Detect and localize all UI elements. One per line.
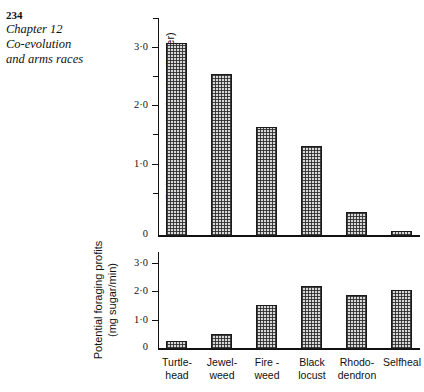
bar-fire-weed-bottom — [256, 305, 277, 349]
x-label-rhododendron-line-2: dendron — [329, 369, 385, 382]
x-axis-line-bottom — [158, 348, 420, 350]
y-tick-minor-0p5-top — [153, 193, 158, 194]
x-axis-category-labels: Turtle- head Jewel- weed Fire - weed Bla… — [158, 356, 424, 390]
bar-black-locust-bottom — [301, 286, 322, 349]
y-tick-1-top — [152, 164, 158, 165]
y-tick-minor-3p5-top — [153, 18, 158, 19]
y-axis-title-bottom-line-1: Potential foraging profits — [91, 215, 105, 385]
y-axis-title-bottom-line-2: (mg sugar/min) — [105, 215, 119, 385]
bar-turtle-head-top — [166, 43, 187, 236]
x-label-selfheal: Selfheal — [374, 356, 424, 369]
y-tick-label-1-top: 1·0 — [108, 159, 148, 169]
bar-jewel-weed-bottom — [211, 334, 232, 349]
page-canvas: 234 Chapter 12 Co-evolution and arms rac… — [0, 0, 424, 392]
plot-area-top: Daily sugar production (mg/flower) 3·0 2… — [158, 18, 420, 236]
y-tick-label-3-top: 3·0 — [108, 42, 148, 52]
y-axis-title-bottom: Potential foraging profits (mg sugar/min… — [91, 215, 151, 385]
bar-selfheal-top — [391, 231, 412, 236]
y-tick-2-top — [152, 105, 158, 106]
chart-daily-sugar-production: Daily sugar production (mg/flower) 3·0 2… — [0, 18, 424, 246]
y-axis-line-top — [158, 18, 159, 236]
chart-potential-foraging-profits: Potential foraging profits (mg sugar/min… — [0, 252, 424, 354]
y-tick-label-1-bottom: 1·0 — [108, 315, 148, 325]
y-tick-label-2-bottom: 2·0 — [108, 286, 148, 296]
y-tick-label-0-bottom: 0 — [108, 342, 148, 352]
y-tick-minor-2p5-top — [153, 76, 158, 77]
y-tick-2-bottom — [152, 291, 158, 292]
y-tick-3-top — [152, 47, 158, 48]
y-tick-label-3-bottom: 3·0 — [108, 258, 148, 268]
bar-selfheal-bottom — [391, 290, 412, 349]
bar-black-locust-top — [301, 146, 322, 236]
bar-jewel-weed-top — [211, 74, 232, 236]
x-axis-line-top — [158, 235, 420, 237]
y-tick-label-2-top: 2·0 — [108, 100, 148, 110]
x-label-selfheal-line-1: Selfheal — [374, 356, 424, 369]
y-tick-1-bottom — [152, 320, 158, 321]
y-axis-line-bottom — [158, 252, 159, 349]
y-tick-minor-1p5-top — [153, 134, 158, 135]
bar-rhododendron-bottom — [346, 295, 367, 349]
bar-turtle-head-bottom — [166, 341, 187, 349]
bar-rhododendron-top — [346, 212, 367, 236]
y-tick-3-bottom — [152, 263, 158, 264]
bar-fire-weed-top — [256, 127, 277, 236]
plot-area-bottom: Potential foraging profits (mg sugar/min… — [158, 252, 420, 349]
